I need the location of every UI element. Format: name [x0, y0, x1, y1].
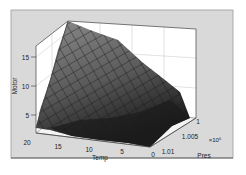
- z-tick-15: 15: [22, 54, 30, 61]
- pres-tick-1: 1: [196, 118, 200, 125]
- pres-tick-1-005: 1.005: [182, 133, 199, 140]
- temp-tick-15: 15: [54, 143, 62, 150]
- z-tick-10: 10: [22, 83, 30, 90]
- surface-plot-figure: 15 10 5 Motor 20 15 10 5 0 Temp 1 1.005 …: [0, 0, 246, 175]
- pres-axis-label: Pres: [197, 152, 211, 159]
- z-tick-5: 5: [25, 112, 29, 119]
- temp-axis-label: Temp: [92, 154, 108, 162]
- pres-tick-1-01: 1.01: [162, 148, 175, 155]
- z-axis-label: Motor: [11, 77, 18, 94]
- temp-tick-0: 0: [151, 151, 155, 158]
- temp-tick-20: 20: [23, 139, 31, 146]
- temp-tick-5: 5: [120, 148, 124, 155]
- pres-multiplier: ×10⁵: [209, 137, 222, 143]
- temp-tick-10: 10: [85, 146, 93, 153]
